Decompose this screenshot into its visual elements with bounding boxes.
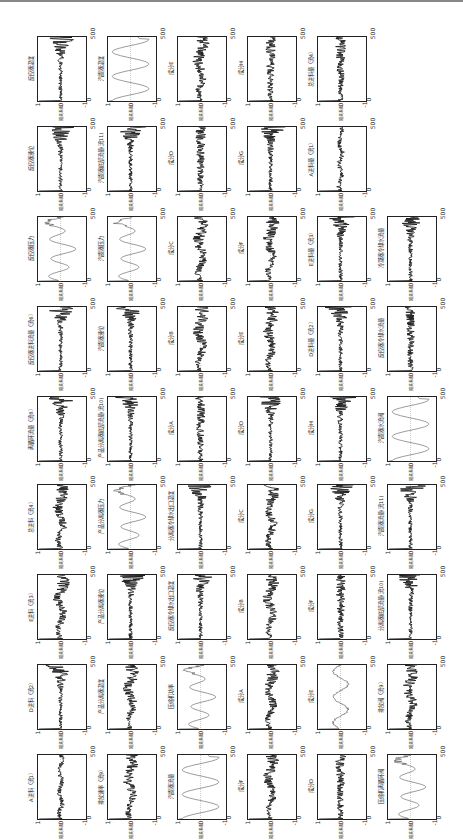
y-tick-label: 1 [174, 463, 181, 467]
y-tick-label: -1 [291, 462, 298, 468]
plot-panel: 汽提器流量(流11)10-10500相关系数 [377, 476, 463, 556]
plot-title: 成分D [235, 396, 245, 460]
plot-title: 冷凝器冷却水流量 [375, 216, 385, 280]
x-tick-label: 0 [155, 278, 162, 282]
plot-area [107, 396, 157, 462]
plot-title-text: 成分H [237, 61, 244, 75]
y-tick-label: -1 [221, 820, 228, 826]
y-tick-label: 1 [174, 821, 181, 825]
y-tick-label: 1 [104, 463, 111, 467]
x-tick-label: 0 [155, 726, 162, 730]
y-tick-label: -1 [221, 640, 228, 646]
y-tick-label: 1 [244, 283, 251, 287]
plot-title-text: 成分E [167, 61, 174, 74]
y-tick-label: 1 [384, 463, 391, 467]
y-tick-label: 1 [104, 641, 111, 645]
plot-area [107, 484, 157, 550]
plot-title-text: 汽提器流量 [167, 774, 174, 799]
plot-title-text: 成分G [237, 151, 244, 165]
x-tick-label: 0 [85, 636, 92, 640]
y-tick-label: -1 [221, 372, 228, 378]
y-tick-label: 1 [314, 731, 321, 735]
plot-area [247, 574, 297, 640]
plot-title-text: 汽提器水流阀 [377, 413, 384, 443]
plot-title-text: 成分H [307, 421, 314, 435]
plot-title-text: 产品分离器温度 [97, 679, 104, 714]
y-tick-label: 1 [104, 731, 111, 735]
page-top-rule [0, 0, 463, 2]
plot-area [37, 396, 87, 462]
x-tick-label: 500 [439, 746, 446, 757]
plot-title: E进料量（流3） [305, 216, 315, 280]
x-tick-label: 0 [295, 458, 302, 462]
y-tick-label: -1 [221, 192, 228, 198]
y-tick-label: 1 [104, 193, 111, 197]
y-tick-label: 1 [174, 373, 181, 377]
y-tick-label: -1 [361, 640, 368, 646]
y-tick-label: 1 [314, 193, 321, 197]
y-tick-label: -1 [291, 730, 298, 736]
y-tick-label: 1 [174, 641, 181, 645]
plot-area [177, 574, 227, 640]
plot-title: 反应器冷却水出口温度 [165, 574, 175, 638]
plot-title-text: 成分C [237, 509, 244, 523]
plot-area [37, 754, 87, 820]
y-tick-label: -1 [431, 820, 438, 826]
plot-panel: 压缩机再循环阀10-10500相关系数 [377, 746, 463, 826]
x-tick-label: 0 [295, 368, 302, 372]
y-tick-label: 1 [104, 103, 111, 107]
y-tick-label: 1 [244, 373, 251, 377]
y-tick-label: -1 [81, 462, 88, 468]
y-tick-label: -1 [291, 192, 298, 198]
y-tick-label: 1 [244, 103, 251, 107]
plot-title-text: A进料（流1） [27, 770, 34, 802]
plot-title-text: 成分D [167, 151, 174, 165]
plot-title: D进料量（流2） [305, 306, 315, 370]
y-tick-label: 1 [174, 551, 181, 555]
plot-title-text: 排放阀（流9） [377, 679, 384, 712]
x-tick-label: 0 [295, 816, 302, 820]
x-tick-label: 0 [225, 636, 232, 640]
y-tick-label: -1 [81, 730, 88, 736]
plot-title-text: 排放速率（流9） [97, 767, 104, 805]
plot-area [107, 306, 157, 372]
y-tick-label: 1 [384, 821, 391, 825]
plot-panel: A进料量（流1）10-10500相关系数 [307, 118, 397, 198]
y-tick-label: -1 [81, 640, 88, 646]
x-tick-label: 0 [85, 726, 92, 730]
plot-title: 成分C [165, 216, 175, 280]
plot-title: 反应器压力 [25, 216, 35, 280]
y-tick-label: -1 [291, 102, 298, 108]
plot-title-text: 压缩机功率 [167, 684, 174, 709]
y-tick-label: -1 [151, 462, 158, 468]
y-tick-label: 1 [314, 821, 321, 825]
y-axis-label: 相关系数 [128, 823, 134, 840]
plot-area [317, 664, 367, 730]
plot-title-text: 反应器冷却水流量 [377, 318, 384, 358]
x-tick-label: 0 [365, 188, 372, 192]
plot-title-text: 成分F [237, 780, 244, 793]
x-tick-label: 500 [439, 388, 446, 399]
x-tick-label: 0 [225, 546, 232, 550]
y-tick-label: -1 [81, 282, 88, 288]
y-tick-label: 1 [314, 283, 321, 287]
y-tick-label: 1 [314, 641, 321, 645]
plot-title-text: 反应器压力 [27, 236, 34, 261]
x-tick-label: 0 [435, 636, 442, 640]
plot-title: 成分G [235, 126, 245, 190]
plot-title-text: 产品分离器压力 [97, 499, 104, 534]
x-tick-label: 0 [295, 188, 302, 192]
plot-area [37, 306, 87, 372]
y-tick-label: -1 [431, 730, 438, 736]
plot-area [317, 36, 367, 102]
y-tick-label: 1 [174, 731, 181, 735]
plot-title-text: 汽提器液位 [97, 326, 104, 351]
x-tick-label: 500 [369, 118, 376, 129]
x-tick-label: 0 [225, 188, 232, 192]
plot-title: 成分F [235, 754, 245, 818]
plot-area [107, 664, 157, 730]
x-tick-label: 0 [155, 188, 162, 192]
y-tick-label: 1 [34, 283, 41, 287]
x-tick-label: 0 [365, 636, 372, 640]
plot-title: 成分E [305, 664, 315, 728]
